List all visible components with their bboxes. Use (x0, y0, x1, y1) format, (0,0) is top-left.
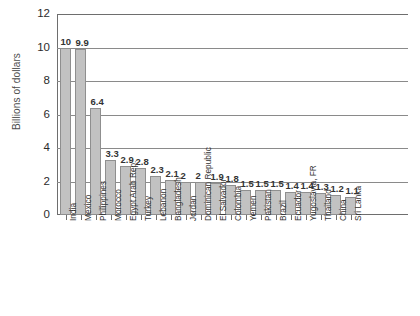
y-tick-label: 4 (28, 142, 50, 154)
x-category-label: Colombia (234, 186, 242, 221)
bar-value-label: 1.5 (271, 179, 284, 189)
x-tick (156, 215, 157, 220)
bar-chart: Billions of dollars 024681012 109.96.43.… (0, 0, 420, 316)
x-tick (321, 215, 322, 220)
bar (75, 49, 86, 215)
x-tick (111, 215, 112, 220)
x-tick (186, 215, 187, 220)
x-category-label: China (339, 199, 347, 221)
x-tick (246, 215, 247, 220)
y-tick-label: 8 (28, 75, 50, 87)
x-category-label: Yemen (249, 195, 257, 221)
bar-value-label: 6.4 (91, 97, 104, 107)
x-tick (351, 215, 352, 220)
y-tick-label: 2 (28, 176, 50, 188)
x-category-label: Mexico (84, 195, 92, 221)
y-axis-tick-labels: 024681012 (22, 0, 50, 316)
bar-value-label: 1.4 (286, 181, 299, 191)
bar (60, 48, 71, 216)
y-axis-title: Billions of dollars (11, 32, 22, 152)
x-category-label: Turkey (144, 196, 152, 221)
x-category-label: El Salvador (219, 179, 227, 221)
x-tick (306, 215, 307, 220)
bars-layer: 109.96.43.32.92.82.32.1221.91.81.51.51.5… (57, 14, 408, 215)
bar-value-label: 10 (61, 37, 72, 47)
y-tick-label: 6 (28, 109, 50, 121)
x-tick (81, 215, 82, 220)
x-tick (336, 215, 337, 220)
x-category-label: Thailand (324, 189, 332, 221)
x-category-label: Lebanon (159, 189, 167, 221)
x-tick (126, 215, 127, 220)
x-category-label: Jordan (189, 196, 197, 221)
x-tick (171, 215, 172, 220)
x-category-label: Egypt Arab Rep. (129, 161, 137, 221)
x-category-label: Philippines (99, 181, 107, 221)
bar-value-label: 9.9 (76, 38, 89, 48)
x-tick (276, 215, 277, 220)
x-tick (231, 215, 232, 220)
x-category-label: Dominican Republic (204, 147, 212, 221)
x-tick (96, 215, 97, 220)
x-tick (261, 215, 262, 220)
x-category-label: Bangladesh (174, 177, 182, 221)
x-category-label: Morocco (114, 189, 122, 221)
y-tick-label: 10 (28, 42, 50, 54)
bar-value-label: 3.3 (106, 149, 119, 159)
bar-value-label: 1.5 (256, 179, 269, 189)
x-tick (201, 215, 202, 220)
x-tick (216, 215, 217, 220)
y-tick-label: 0 (28, 209, 50, 221)
x-tick (141, 215, 142, 220)
bar-value-label: 2 (196, 171, 201, 181)
y-tick-label: 12 (28, 8, 50, 20)
x-category-label: Ecuador (294, 190, 302, 221)
x-tick (66, 215, 67, 220)
x-category-label: Pakistan (264, 189, 272, 221)
x-tick (291, 215, 292, 220)
x-category-label: Sri Lanka (354, 186, 362, 221)
plot-area: 109.96.43.32.92.82.32.1221.91.81.51.51.5… (57, 14, 408, 215)
x-category-label: India (69, 203, 77, 221)
x-category-label: Yugoslavia, FR (309, 165, 317, 221)
bar-value-label: 2.3 (151, 165, 164, 175)
x-category-label: Brazil (279, 200, 287, 221)
